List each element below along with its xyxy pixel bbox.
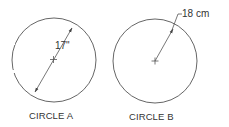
diagram-canvas bbox=[0, 0, 229, 127]
circle-b bbox=[113, 14, 197, 103]
circle-b-dimension: 18 cm bbox=[182, 8, 209, 19]
circle-a-caption: CIRCLE A bbox=[29, 110, 73, 121]
circle-a-dimension: 17" bbox=[55, 40, 70, 51]
circle-b-caption: CIRCLE B bbox=[129, 111, 174, 122]
circle-a-outline bbox=[12, 18, 96, 102]
center-mark-icon bbox=[50, 56, 57, 63]
circle-a bbox=[10, 18, 96, 102]
center-mark-icon bbox=[152, 58, 159, 65]
radius-line bbox=[155, 29, 173, 61]
